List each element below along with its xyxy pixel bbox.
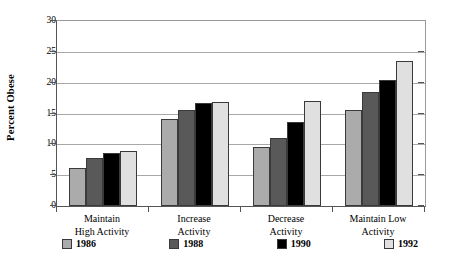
bar [362, 92, 379, 206]
legend-item: 1990 [277, 238, 311, 249]
bar [195, 103, 212, 206]
x-axis-label: MaintainHigh Activity [56, 212, 148, 238]
bar [287, 122, 304, 206]
bar [178, 110, 195, 206]
x-axis-label-line: Maintain [56, 212, 148, 225]
bar-chart: Percent Obese 051015202530 MaintainHigh … [0, 0, 457, 260]
bar [161, 119, 178, 206]
x-axis-label-line: Increase [148, 212, 240, 225]
bar [304, 101, 321, 206]
x-axis-label: DecreaseActivity [240, 212, 332, 238]
bar [270, 138, 287, 206]
legend-item: 1986 [62, 238, 96, 249]
legend-label: 1990 [291, 238, 311, 249]
legend-swatch [384, 239, 394, 249]
legend-item: 1992 [384, 238, 418, 249]
x-axis-tick-mark [424, 206, 425, 212]
bar [253, 147, 270, 206]
x-axis-label: IncreaseActivity [148, 212, 240, 238]
x-axis-label: Maintain LowActivity [332, 212, 424, 238]
bar [345, 110, 362, 206]
legend-label: 1988 [183, 238, 203, 249]
y-axis-title: Percent Obese [0, 0, 20, 215]
legend-label: 1986 [76, 238, 96, 249]
bar [120, 151, 137, 206]
bar-group [241, 21, 333, 206]
plot-area [56, 20, 426, 207]
x-axis-label-line: Maintain Low [332, 212, 424, 225]
legend-swatch [277, 239, 287, 249]
x-axis-label-line: High Activity [56, 225, 148, 238]
bar-group [149, 21, 241, 206]
legend-swatch [169, 239, 179, 249]
bar [103, 153, 120, 206]
legend-item: 1988 [169, 238, 203, 249]
y-axis-title-text: Percent Obese [5, 74, 16, 141]
x-axis-label-line: Decrease [240, 212, 332, 225]
bar-group [57, 21, 149, 206]
chart-legend: 1986198819901992 [56, 238, 424, 249]
bar [69, 168, 86, 206]
legend-label: 1992 [398, 238, 418, 249]
bar [86, 158, 103, 206]
bar-group [333, 21, 425, 206]
bar [212, 102, 229, 206]
bar [396, 61, 413, 206]
x-axis-label-line: Activity [148, 225, 240, 238]
legend-swatch [62, 239, 72, 249]
x-axis-label-line: Activity [240, 225, 332, 238]
bar [379, 80, 396, 206]
x-axis-label-line: Activity [332, 225, 424, 238]
